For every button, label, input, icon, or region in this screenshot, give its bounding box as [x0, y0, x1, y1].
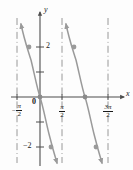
curve-branch-2 — [66, 24, 102, 163]
minus-sign-neg-half-pi: − — [12, 107, 16, 115]
intercept-origin — [38, 95, 43, 100]
origin-label: 0 — [32, 98, 36, 106]
neg-half-pi-denominator: 2 — [16, 110, 22, 118]
y-tick-label-2: 2 — [46, 42, 50, 50]
x-tick-label-neg-half-pi: − π 2 — [6, 103, 28, 119]
neg-half-pi-numerator: π — [16, 103, 22, 110]
point-branch2-y2 — [72, 45, 77, 50]
y-axis-label: y — [44, 6, 48, 14]
three-half-pi-numerator: 3π — [103, 104, 112, 111]
three-half-pi-denominator: 2 — [103, 111, 112, 119]
y-tick-label-minus-2: −2 — [23, 142, 32, 150]
x-tick-label-half-pi: π 2 — [54, 103, 70, 120]
graph-figure: y x 0 2 −2 − π 2 π 2 3π 2 — [0, 0, 133, 170]
point-branch1-y-neg2 — [49, 145, 54, 150]
x-axis-label: x — [126, 90, 130, 98]
x-tick-label-three-half-pi: 3π 2 — [98, 103, 118, 120]
point-branch2-y-neg2 — [94, 145, 99, 150]
intercept-pi — [83, 95, 88, 100]
coordinate-plane-svg — [0, 0, 133, 170]
half-pi-denominator: 2 — [59, 111, 65, 119]
half-pi-numerator: π — [59, 104, 65, 111]
point-branch1-y2 — [27, 45, 32, 50]
